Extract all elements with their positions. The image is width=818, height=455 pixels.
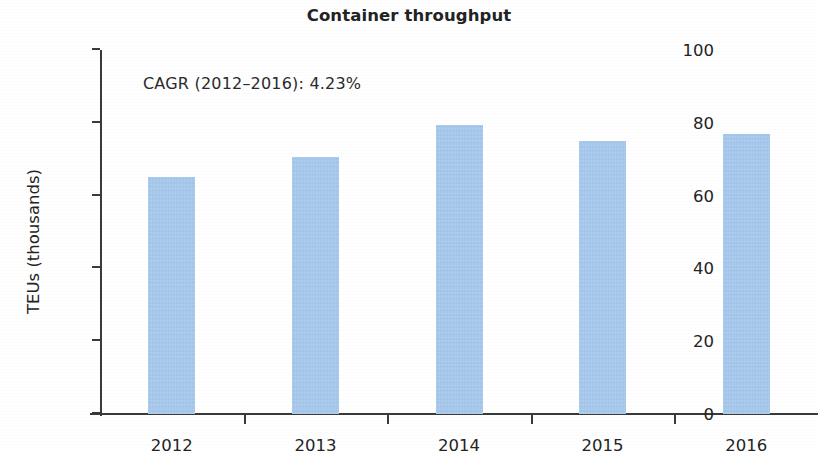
bar — [579, 141, 626, 414]
y-axis-label: TEUs (thousands) — [24, 117, 43, 367]
x-tick-label: 2016 — [701, 436, 791, 455]
x-tick — [674, 415, 676, 424]
x-tick-label: 2013 — [270, 436, 360, 455]
x-tick — [531, 415, 533, 424]
y-tick — [92, 194, 100, 196]
bar — [292, 157, 339, 414]
bar — [436, 125, 483, 414]
bar — [723, 134, 770, 414]
y-tick — [92, 339, 100, 341]
x-tick — [244, 415, 246, 424]
x-tick-label: 2012 — [127, 436, 217, 455]
y-tick-label: 100 — [654, 41, 714, 60]
y-tick — [92, 412, 100, 414]
x-tick — [387, 415, 389, 424]
chart-title: Container throughput — [0, 6, 818, 25]
y-tick-label: 80 — [654, 113, 714, 132]
y-axis-line — [100, 50, 102, 416]
y-tick-label: 20 — [654, 332, 714, 351]
y-tick — [92, 48, 100, 50]
x-tick-label: 2015 — [558, 436, 648, 455]
y-tick — [92, 121, 100, 123]
x-tick-label: 2014 — [414, 436, 504, 455]
y-tick-label: 0 — [654, 405, 714, 424]
y-tick-label: 60 — [654, 186, 714, 205]
y-tick — [92, 266, 100, 268]
y-tick-label: 40 — [654, 259, 714, 278]
bar — [148, 177, 195, 414]
plot-area: 020406080100 20122013201420152016 — [100, 50, 818, 415]
